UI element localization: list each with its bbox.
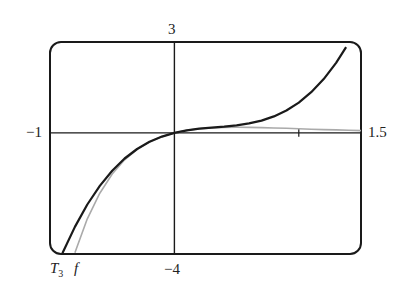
- x-max-label: 1.5: [368, 125, 387, 140]
- series-t3-curve: [62, 47, 346, 253]
- legend-f-label: f: [74, 261, 78, 276]
- plot-area: [0, 0, 403, 290]
- series-f-curve: [75, 127, 361, 253]
- legend-t3-label: T3: [50, 261, 63, 279]
- y-max-label: 3: [168, 22, 176, 37]
- y-min-label: −4: [164, 262, 180, 277]
- viewing-window-frame: [50, 42, 361, 254]
- x-min-label: −1: [26, 125, 42, 140]
